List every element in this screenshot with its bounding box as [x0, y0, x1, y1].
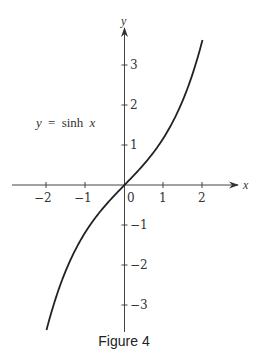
svg-text:0: 0 — [127, 191, 135, 205]
svg-text:3: 3 — [130, 58, 138, 72]
equation-label: y = sinh x — [34, 115, 96, 130]
x-tick-labels: −2 −1 0 1 2 — [34, 191, 206, 205]
x-axis-label: x — [242, 178, 249, 192]
svg-text:−1: −1 — [130, 218, 148, 232]
svg-text:2: 2 — [198, 191, 206, 205]
y-axis-label: y — [120, 14, 127, 28]
svg-text:−1: −1 — [74, 191, 92, 205]
sinh-graph: x y −2 −1 0 1 2 3 2 1 −1 −2 −3 y = sinh — [0, 0, 262, 361]
svg-text:−3: −3 — [130, 298, 148, 312]
svg-text:−2: −2 — [130, 258, 148, 272]
svg-text:−2: −2 — [34, 191, 52, 205]
svg-text:1: 1 — [159, 191, 167, 205]
svg-text:2: 2 — [130, 98, 138, 112]
figure-caption: Figure 4 — [0, 333, 248, 349]
svg-text:1: 1 — [130, 138, 138, 152]
